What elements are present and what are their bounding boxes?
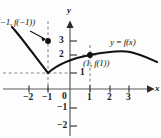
y-axis-arrow-icon bbox=[66, 21, 73, 29]
curve-equation-label: y = f(x) bbox=[110, 38, 135, 47]
origin-label: 0 bbox=[62, 92, 67, 102]
function-graph-figure: (−1, f(−1)) (1, f(1)) y = f(x) y x 0 −2 … bbox=[0, 0, 161, 138]
left-point-label: (−1, f(−1)) bbox=[0, 18, 35, 27]
x-tick-label-3: 3 bbox=[126, 93, 131, 103]
y-tick-label-2: 2 bbox=[59, 50, 64, 60]
x-axis-label: x bbox=[155, 84, 160, 93]
y-tick-label-3: 3 bbox=[59, 36, 64, 46]
right-point-label: (1, f(1)) bbox=[83, 59, 109, 68]
x-tick-label-1: 1 bbox=[87, 93, 92, 103]
y-axis-ticks bbox=[70, 41, 77, 126]
x-tick-label-2: 2 bbox=[107, 93, 112, 103]
x-tick-label-minus-1: −1 bbox=[42, 93, 52, 103]
y-tick-label-minus-2: −2 bbox=[57, 121, 67, 131]
y-axis-label: y bbox=[67, 6, 71, 15]
x-tick-label-minus-2: −2 bbox=[23, 93, 33, 103]
y-tick-label-1: 1 bbox=[80, 68, 85, 78]
point-marker-left bbox=[45, 38, 51, 44]
curve-left-branch bbox=[12, 27, 48, 73]
leader-line-to-left-point bbox=[30, 31, 45, 39]
y-tick-label-minus-1: −1 bbox=[57, 103, 67, 113]
x-axis-arrow-icon bbox=[147, 85, 155, 92]
